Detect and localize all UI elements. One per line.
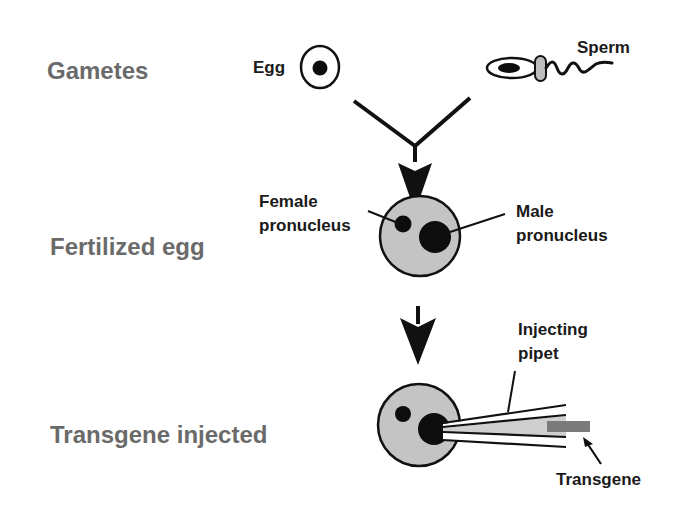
transgene-block	[547, 421, 590, 432]
stage-label-gametes: Gametes	[47, 59, 148, 83]
female-pronucleus-label-line1: Female	[259, 190, 351, 214]
injecting-pipet-label-line2: pipet	[518, 342, 588, 366]
egg-cell-icon	[301, 46, 339, 88]
merge-arrow-icon	[354, 98, 470, 212]
male-pronucleus-label-line1: Male	[516, 200, 608, 224]
male-pronucleus-label: Male pronucleus	[516, 200, 608, 248]
transgene-label: Transgene	[556, 468, 641, 492]
injecting-pipet-label-line1: Injecting	[518, 318, 588, 342]
transgene-arrow-icon	[583, 437, 601, 464]
stage-label-transgene-injected: Transgene injected	[50, 423, 267, 447]
down-arrow-icon	[400, 306, 436, 365]
egg-label: Egg	[253, 56, 285, 80]
transgenic-diagram: Gametes Fertilized egg Transgene injecte…	[0, 0, 698, 520]
stage-label-fertilized-egg: Fertilized egg	[50, 235, 205, 259]
female-pronucleus-label: Female pronucleus	[259, 190, 351, 238]
injecting-pipet-label: Injecting pipet	[518, 318, 588, 366]
male-pronucleus-label-line2: pronucleus	[516, 224, 608, 248]
female-pronucleus-label-line2: pronucleus	[259, 214, 351, 238]
pipet-leader-line	[508, 371, 515, 412]
fertilized-egg-icon	[368, 196, 505, 276]
sperm-label: Sperm	[577, 36, 630, 60]
injecting-pipet-icon	[443, 371, 590, 447]
